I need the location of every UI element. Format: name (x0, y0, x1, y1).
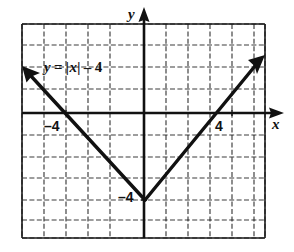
curve-left-arrow-icon (22, 66, 40, 83)
absolute-value-graph-figure: y x –4 4 –4 y=|x|–4 (0, 0, 294, 252)
y-axis-label: y (128, 6, 135, 23)
equation-equals-sign: = (54, 59, 63, 75)
equation-variable-y: y (44, 59, 51, 75)
x-tick-label-positive-four: 4 (215, 118, 223, 134)
x-tick-label-negative-four: –4 (44, 118, 60, 134)
equation-constant-four: 4 (95, 59, 103, 75)
x-axis-label: x (272, 116, 280, 133)
equation-minus-sign: – (84, 59, 92, 75)
equation-annotation: y=|x|–4 (44, 59, 102, 76)
y-axis-arrow-icon (139, 7, 150, 22)
y-axis (139, 7, 150, 238)
equation-absolute-value-x: |x| (66, 59, 81, 75)
y-tick-label-negative-four: –4 (118, 189, 134, 205)
